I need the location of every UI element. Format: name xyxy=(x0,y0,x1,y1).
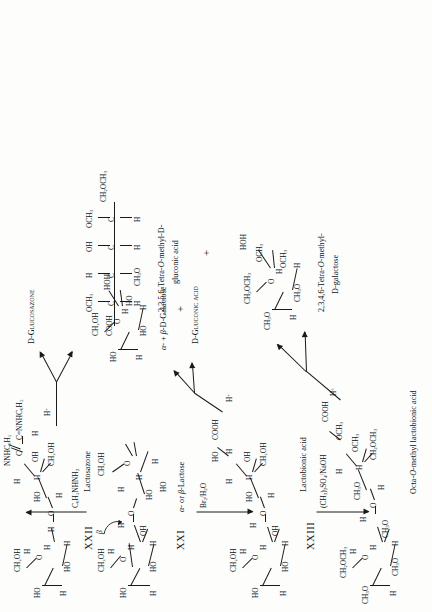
lactose-name: α- or β-Lactose xyxy=(178,462,186,512)
galprod-ho-1: HO xyxy=(110,351,117,362)
oml-ch3o-2: CH3O xyxy=(392,558,400,576)
oml-ch2och3-2: CH2OCH3 xyxy=(370,429,378,460)
lactosazone-h-c: H xyxy=(14,479,21,484)
tmga-h-3: H xyxy=(134,245,141,250)
tmga-h-1: H xyxy=(134,301,141,306)
lactose-gal-h-top: H xyxy=(108,549,115,554)
reagent-acid-3: H+ xyxy=(330,388,338,396)
tmg-c6: CH2OCH3 xyxy=(244,273,252,304)
tmg-ringo: O xyxy=(268,279,275,284)
reagent-acid-1: H+ xyxy=(44,408,52,416)
lactobionic-roman-numeral: XXIII xyxy=(306,522,317,550)
oml-h-6: H xyxy=(378,485,385,490)
octa-methyl-name: Octa-O-methyl lactobionic acid xyxy=(410,390,418,494)
tmga-h-4: H xyxy=(134,217,141,222)
oml-h-3: H xyxy=(392,541,399,546)
lba-h-c: H xyxy=(226,479,233,484)
oml-ch3o-4: CH3O xyxy=(354,482,362,500)
product-glucosazone: D-Glucosazone xyxy=(28,289,36,344)
lactose-glc-c6: CH₂OH xyxy=(98,452,105,476)
tmg-name-line1: 2,3,4,6-Tetra-O-methyl- xyxy=(318,233,326,312)
tmg-name-line2: D-galactose xyxy=(332,255,340,294)
lactose-glc-h-3: H xyxy=(152,459,159,464)
lba-gal-h-3: H xyxy=(282,541,289,546)
oml-ch3o-1: CH3O xyxy=(362,586,370,604)
tmga-och3-1: OCH3 xyxy=(86,294,94,312)
tmg-h-1: H xyxy=(290,315,297,320)
lactosazone-osazone-top: NNHC6H5 xyxy=(4,435,12,466)
tmg-h-2: H xyxy=(276,269,283,274)
lactosazone-gal-h-top: H xyxy=(24,549,31,554)
oml-glycosidic-o: O xyxy=(370,503,377,508)
lba-gal-ho-2: HO xyxy=(282,561,289,572)
oml-och3-1: OCH3 xyxy=(352,434,360,452)
tmga-oh: OH xyxy=(86,241,93,252)
lactose-glc-ho-2: HO xyxy=(160,481,167,492)
galprod-h-2: H xyxy=(122,309,129,314)
lactose-gal-h-3: H xyxy=(150,541,157,546)
figure-page: HO H CH₂OH O H HO H H OH H β O xyxy=(0,0,432,612)
reagent-bromine-water: Br2/H2O xyxy=(200,483,208,508)
lactose-gal-ho-2: HO xyxy=(150,561,157,572)
tmg-och3-1: OCH3 xyxy=(280,250,288,268)
reagent-dimethyl-sulfate: (CH3)2SO4/NaOH xyxy=(320,454,328,508)
tmga-name-line1: 2,3,5,6-Tetra-O-methyl-D- xyxy=(158,225,166,312)
lba-oh-2: OH xyxy=(244,451,251,462)
tmga-h-2: H xyxy=(86,273,93,278)
galprod-c6: CH₂OH xyxy=(92,312,99,336)
tmga-ch2och3: CH2OCH3 xyxy=(100,171,108,202)
oml-h-1: H xyxy=(390,591,397,596)
tmga-och3-2: OCH3 xyxy=(86,210,94,228)
lactosazone-roman-numeral: XXII xyxy=(84,526,95,550)
oml-h-5: H xyxy=(360,517,367,522)
galprod-ringo: O xyxy=(114,319,121,324)
lba-gal-h-1: H xyxy=(280,591,287,596)
lactosazone-h-osazone: H xyxy=(32,431,39,436)
lba-gal-ringo: O xyxy=(252,555,259,560)
lactose-glycosidic-o: O xyxy=(128,511,135,516)
reagent-acid-2: H+ xyxy=(226,394,234,402)
lactobionic-acid-name: Lactobionic acid xyxy=(300,437,308,492)
lactosazone-gal-h-2: H xyxy=(44,545,51,550)
lactosazone-gal-c6: CH₂OH xyxy=(14,548,21,572)
lba-gal-c6: CH₂OH xyxy=(230,548,237,572)
lba-ho-1: HO xyxy=(246,491,253,502)
plus-symbol-1: + xyxy=(174,306,186,312)
lactose-gal-h-1: H xyxy=(150,591,157,596)
lactosazone-gal-ho-2: HO xyxy=(64,561,71,572)
lactosazone-oh: OH xyxy=(32,451,39,462)
lactosazone-osazone-bottom: C=NNHC6H5 xyxy=(16,400,24,440)
tmga-ch3o-1: CH3O xyxy=(134,268,142,286)
tmga-cooh: COOH xyxy=(106,315,113,336)
lactose-glc-h-2: H xyxy=(136,475,143,480)
reaction-scheme-canvas: HO H CH₂OH O H HO H H OH H β O xyxy=(0,0,432,612)
lactose-gal-h-2: H xyxy=(128,545,135,550)
tmga-name-line2: gluconic acid xyxy=(172,240,180,284)
lactosazone-name: Lactosazone xyxy=(84,451,92,492)
tmg-ch3o-2: CH3O xyxy=(294,284,302,302)
lba-h-d: H xyxy=(226,449,233,454)
lactosazone-gal-h-3: H xyxy=(64,541,71,546)
plus-symbol-2: + xyxy=(200,250,212,256)
oml-ringo-1: O xyxy=(362,555,369,560)
lba-h-a: H xyxy=(268,493,275,498)
reagent-phenylhydrazine: C6H5NHNH2 xyxy=(72,469,80,508)
lactose-glc-ho-1: HO xyxy=(146,489,153,500)
lactose-gal-ho-1: HO xyxy=(120,587,127,598)
galprod-h-1: H xyxy=(136,355,143,360)
lactosazone-gal-ringo: O xyxy=(36,555,43,560)
lactosazone-gal-ho-1: HO xyxy=(34,587,41,598)
product-gluconic-acid: D-Gluconic acid xyxy=(192,286,200,344)
oml-h-8: H xyxy=(336,469,343,474)
lactose-glc-ringo: O xyxy=(124,461,131,466)
beta-pointer-arrow xyxy=(100,508,126,538)
lba-gal-h-4: H xyxy=(250,523,257,528)
lactosazone-h-a: H xyxy=(56,493,63,498)
tmg-anomeric: HOH xyxy=(240,234,247,250)
tmg-h-3: H xyxy=(294,263,301,268)
oml-h-2: H xyxy=(370,545,377,550)
oml-ch2och3-1: CH2OCH3 xyxy=(340,547,348,578)
lba-glycosidic-o: O xyxy=(260,511,267,516)
lba-ho-2: HO xyxy=(212,451,219,462)
lactosazone-glycosidic-o: O xyxy=(48,511,55,516)
